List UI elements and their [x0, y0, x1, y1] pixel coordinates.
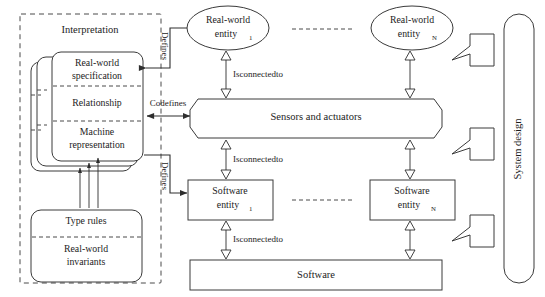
system-design-arrow-1: [452, 34, 494, 66]
software-layer-label: Software: [297, 269, 335, 280]
system-design-arrow-2: [452, 128, 494, 160]
swe1-line-2: entity: [217, 199, 239, 210]
swen-line-2: entity: [398, 199, 420, 210]
swen-subscript: N: [431, 205, 436, 212]
section-relationship: Relationship: [72, 97, 122, 108]
sensors-and-actuators-label: Sensors and actuators: [271, 111, 362, 122]
rwe1-subscript: 1: [249, 34, 252, 41]
isconnectedto-3-arrow: [221, 221, 231, 259]
diagram-canvas: Interpretation Real-world specification …: [0, 0, 545, 297]
rws-line-2: specification: [72, 70, 122, 81]
codefines-label: Codefines: [150, 98, 187, 108]
rwe1-line-2: entity: [215, 28, 237, 39]
swe1-line-1: Software: [212, 185, 248, 196]
isconnectedto-2-right-arrow: [405, 140, 415, 179]
rw-invariants-line-2: invariants: [67, 256, 106, 267]
isconnectedto-1-arrow: [221, 51, 231, 98]
interpretation-label: Interpretation: [61, 24, 119, 35]
mr-line-1: Machine: [80, 126, 115, 137]
isconnectedto-3-label: Isconnectedto: [233, 234, 283, 244]
isconnectedto-1-right-arrow: [405, 51, 415, 98]
swe1-subscript: 1: [249, 205, 252, 212]
relationship-line-1: Relationship: [72, 97, 122, 108]
isconnectedto-2-label: Isconnectedto: [233, 154, 283, 164]
rwen-line-2: entity: [398, 28, 420, 39]
rw-invariants-line-1: Real-world: [64, 243, 108, 254]
isconnectedto-2-arrow: [221, 140, 231, 179]
defines-top-label: Defines: [160, 32, 170, 60]
system-design-label: System design: [512, 118, 523, 180]
swen-line-1: Software: [394, 185, 430, 196]
mr-line-2: representation: [69, 139, 125, 150]
isconnectedto-3-right-arrow: [405, 221, 415, 259]
rwen-subscript: N: [432, 34, 437, 41]
rwen-line-1: Real-world: [390, 14, 434, 25]
system-design-diagram: Interpretation Real-world specification …: [0, 0, 545, 297]
type-rules-label: Type rules: [66, 215, 107, 226]
defines-bottom-label: Defines: [160, 162, 170, 190]
rwe1-line-1: Real-world: [206, 14, 250, 25]
rws-line-1: Real-world: [75, 57, 119, 68]
system-design-arrow-3: [452, 215, 494, 247]
isconnectedto-1-label: Isconnectedto: [233, 69, 283, 79]
